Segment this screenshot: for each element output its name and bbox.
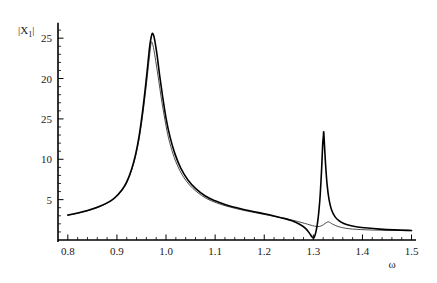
x-tick-label: 0.9 xyxy=(110,245,124,257)
x-tick-label: 1.1 xyxy=(208,245,222,257)
x-tick-label: 1.2 xyxy=(257,245,271,257)
x-tick-label: 1.3 xyxy=(306,245,320,257)
y-tick-label: 10 xyxy=(41,153,53,165)
y-tick-label: 20 xyxy=(41,73,53,85)
x-tick-label: 0.8 xyxy=(61,245,75,257)
y-tick-label: 5 xyxy=(47,194,53,206)
x-axis-title: ω xyxy=(388,258,395,270)
y-tick-label: 25 xyxy=(41,113,53,125)
x-tick-label: 1.4 xyxy=(356,245,370,257)
chart-figure: 510252025 0.80.91.01.11.21.31.41.5 |X1|ω xyxy=(0,0,437,283)
x-tick-label: 1.5 xyxy=(405,245,419,257)
x-tick-label: 1.0 xyxy=(159,245,173,257)
y-tick-label: 25 xyxy=(41,32,53,44)
frequency-response-plot: 510252025 0.80.91.01.11.21.31.41.5 |X1|ω xyxy=(0,0,437,283)
